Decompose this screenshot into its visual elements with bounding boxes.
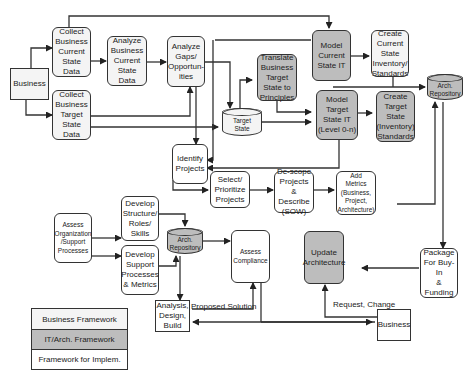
collect-target-state-box: Collect Business Target State Data	[52, 90, 91, 140]
assess-compliance-box: Assess Compliance	[231, 230, 270, 283]
business-source-box: Business	[10, 68, 49, 100]
legend-it-arch-framework: IT/Arch. Framework	[32, 329, 127, 349]
legend-business-framework: Business Framework	[32, 309, 127, 329]
arch-repository-top-cylinder: Arch. Repository	[427, 74, 463, 100]
business-sink-box: Business	[377, 309, 411, 341]
analysis-design-build-box: Analysis, Design, Build	[155, 300, 190, 332]
model-target-state-it-box: Model Target State IT (Level 0-n)	[316, 90, 358, 140]
update-architecture-box: Update Architecture	[304, 231, 344, 284]
add-metrics-box: Add Metrics (Business, Project, Architec…	[336, 171, 376, 215]
develop-structure-box: Develop Structure/ Roles/ Skills	[121, 196, 159, 241]
target-state-cylinder: Target State	[222, 108, 262, 136]
collect-current-state-box: Collect Business Current State Data	[52, 27, 91, 77]
descope-projects-box: De-scope Projects & Describe (SOW)	[274, 171, 314, 213]
create-current-inventory-box: Create Current State Inventory/ Standard…	[371, 30, 409, 77]
model-current-state-it-box: Model Current State IT	[312, 30, 351, 81]
develop-support-processes-box: Develop Support Processes & Metrics	[121, 245, 159, 295]
proposed-solution-label: Proposed Solution	[191, 302, 256, 311]
request-change-label: Request, Change	[333, 300, 395, 309]
legend-framework-implementation: Framework for Implem.	[32, 349, 127, 369]
assess-organization-box: Assess Organization /Support Processes	[54, 213, 92, 263]
package-funding-box: Package For Buy-In & Funding	[420, 248, 458, 298]
analyze-current-state-box: Analyze Business Current State Data	[107, 36, 147, 86]
legend: Business Framework IT/Arch. Framework Fr…	[31, 308, 128, 370]
translate-target-state-box: Translate Business Target State to Princ…	[257, 54, 297, 101]
create-target-inventory-box: Create Target State (Inventory) Standard…	[376, 91, 415, 142]
analyze-gaps-box: Analyze Gaps/ Opportun- ities	[167, 36, 205, 87]
identify-projects-box: Identify Projects	[172, 144, 208, 184]
arch-repository-bottom-cylinder: Arch. Repository	[167, 228, 203, 254]
select-prioritize-box: Select/ Prioritize Projects	[210, 171, 250, 208]
